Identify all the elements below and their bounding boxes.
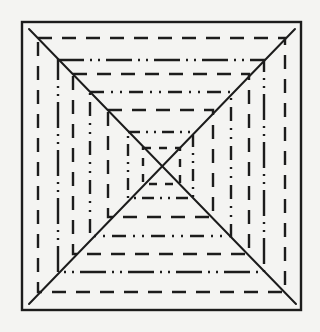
nested-squares-diagram [0, 0, 320, 332]
diagonals-group [29, 29, 296, 304]
